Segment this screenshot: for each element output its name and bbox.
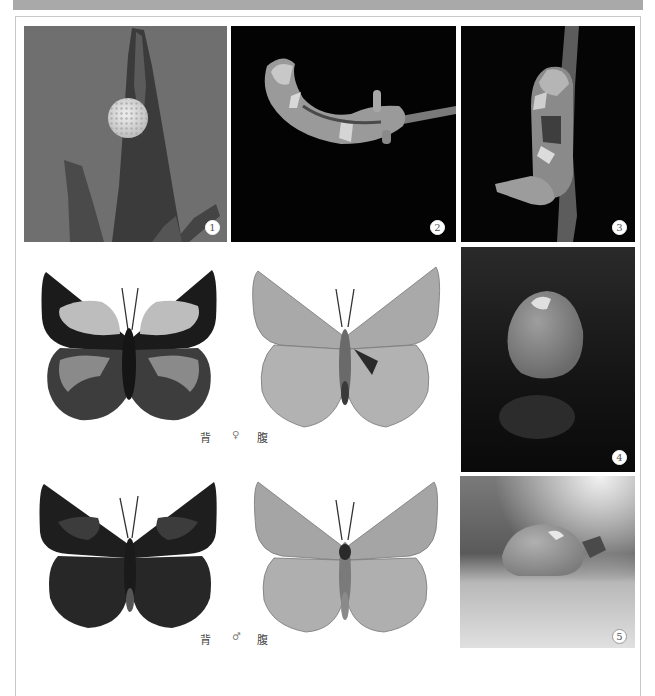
photo-number-badge: 5	[612, 629, 627, 644]
photo-number-badge: 4	[612, 450, 627, 465]
caption-ventral-label: 腹	[257, 429, 268, 445]
pupa-image	[460, 476, 635, 648]
photo-number-badge: 2	[430, 220, 445, 235]
photo-number-badge: 1	[205, 220, 220, 235]
caption-female: 背 ♀ 腹	[200, 429, 290, 443]
larva-image	[231, 26, 456, 242]
photo-pupa-dark: 4	[461, 247, 635, 472]
photo-egg: 1	[24, 26, 227, 242]
header-bar	[13, 0, 643, 10]
butterfly-male-dorsal	[38, 482, 218, 630]
photo-number-badge: 3	[612, 220, 627, 235]
photo-pupa-light: 5	[460, 476, 635, 648]
photo-larva-side: 2	[231, 26, 456, 242]
caption-dorsal-label: 背	[200, 631, 211, 647]
caption-sex-symbol: ♂	[232, 631, 241, 642]
pupa-image	[461, 247, 635, 472]
butterfly-male-ventral	[252, 480, 440, 634]
butterfly-female-ventral	[250, 265, 442, 429]
caption-sex-symbol: ♀	[232, 429, 239, 440]
larva-image	[461, 26, 635, 242]
caption-male: 背 ♂ 腹	[200, 631, 290, 645]
egg-image	[24, 26, 227, 242]
caption-dorsal-label: 背	[200, 429, 211, 445]
caption-ventral-label: 腹	[257, 631, 268, 647]
butterfly-female-dorsal	[40, 268, 218, 423]
photo-larva-stem: 3	[461, 26, 635, 242]
